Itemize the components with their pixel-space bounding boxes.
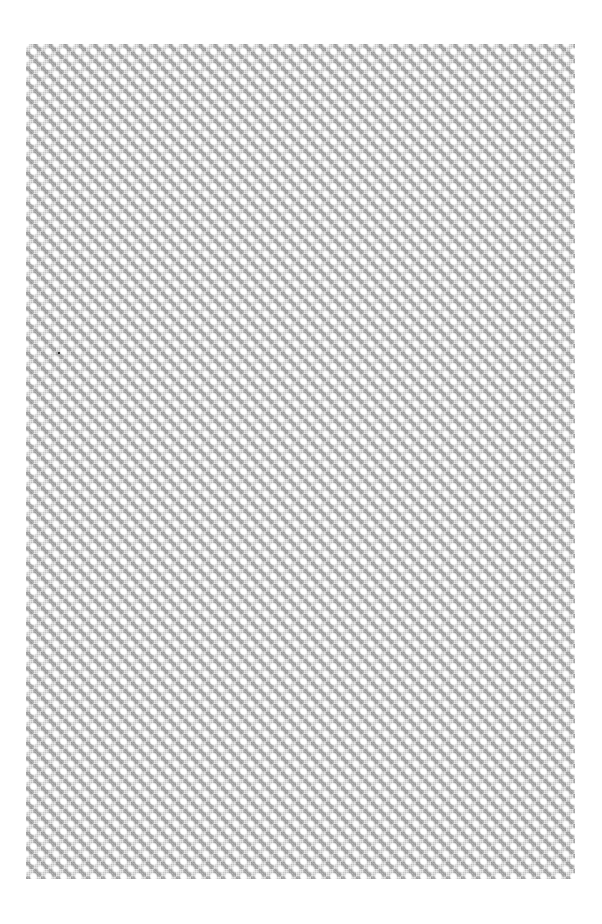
diamond-dot-pattern xyxy=(26,44,575,879)
dark-speck xyxy=(58,352,60,354)
page-canvas xyxy=(0,0,602,924)
